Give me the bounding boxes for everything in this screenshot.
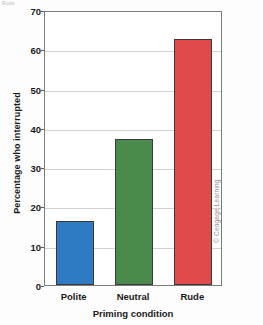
y-axis-tick-mark (41, 286, 44, 287)
y-axis-tick-label: 0 (1, 281, 41, 292)
bar-rude (174, 39, 212, 285)
x-axis-tick-label: Rude (180, 291, 204, 302)
bar-neutral (115, 139, 153, 285)
bar-chart-figure: Rude 010203040506070 Percentage who inte… (0, 0, 263, 325)
plot-area (45, 12, 221, 285)
x-axis-title: Priming condition (44, 308, 222, 319)
y-axis-title: Percentage who interrupted (12, 58, 22, 248)
y-axis-tick-label: 70 (1, 6, 41, 17)
x-axis-tick-label: Polite (61, 291, 87, 302)
y-axis-tick-label: 60 (1, 45, 41, 56)
copyright-credit: © Cengage Learning (213, 153, 220, 243)
x-axis-tick-label: Neutral (117, 291, 150, 302)
plot-frame (44, 11, 222, 286)
bar-polite (56, 221, 94, 285)
